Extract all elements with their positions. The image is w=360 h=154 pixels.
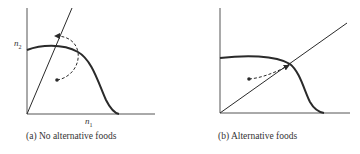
panel-b-trajectory — [249, 66, 288, 79]
panel-a-caption: (a) No alternative foods — [26, 131, 116, 141]
panel-a — [27, 8, 155, 114]
panel-b-prey-isocline — [220, 56, 324, 113]
panel-a-prey-isocline — [27, 46, 119, 114]
panel-a-x-axis-label: n1 — [85, 116, 93, 128]
panel-b-caption: (b) Alternative foods — [218, 131, 297, 141]
panel-a-start-point — [55, 78, 59, 82]
panel-b-start-point — [247, 77, 251, 81]
panel-a-predator-isocline — [27, 8, 72, 114]
x-label-sub: 1 — [90, 122, 93, 128]
panel-a-trajectory — [56, 36, 78, 80]
panel-a-y-axis-label: n2 — [14, 38, 22, 50]
y-label-sub: 2 — [19, 44, 22, 50]
panel-b — [220, 8, 350, 113]
